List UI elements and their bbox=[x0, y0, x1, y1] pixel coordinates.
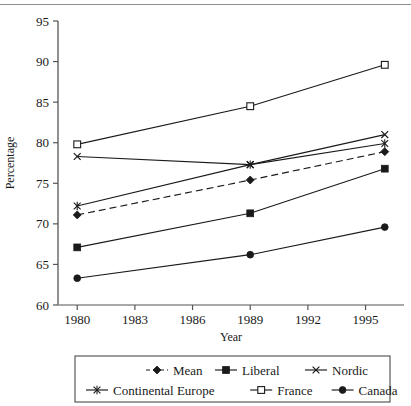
series-line bbox=[77, 169, 385, 248]
series-lines-group bbox=[77, 65, 385, 278]
y-axis-ticks: 6065707580859095 bbox=[36, 14, 58, 313]
x-axis-ticks: 198019831986198919921995 bbox=[64, 305, 378, 327]
legend-label: Nordic bbox=[332, 363, 368, 378]
data-point-open-square bbox=[247, 103, 254, 110]
y-tick-label: 75 bbox=[36, 176, 49, 191]
legend-row-primary: MeanLiberalNordic bbox=[146, 363, 368, 378]
series-line bbox=[77, 65, 385, 145]
y-tick-label: 90 bbox=[36, 54, 49, 69]
data-point-filled-diamond bbox=[73, 211, 81, 219]
data-point-filled-diamond bbox=[246, 176, 254, 184]
x-tick-label: 1980 bbox=[64, 312, 90, 327]
data-point-filled-circle bbox=[74, 275, 81, 282]
series-line bbox=[77, 144, 385, 206]
series-line bbox=[77, 135, 385, 165]
y-tick-label: 60 bbox=[36, 298, 49, 313]
y-axis-title: Percentage bbox=[3, 137, 17, 190]
data-point-filled-square bbox=[74, 244, 81, 251]
legend-marker-open-square bbox=[258, 387, 265, 394]
y-tick-label: 80 bbox=[36, 135, 49, 150]
x-tick-label: 1992 bbox=[295, 312, 321, 327]
chart-axes bbox=[58, 21, 404, 305]
legend-label: Mean bbox=[173, 363, 203, 378]
y-tick-label: 85 bbox=[36, 95, 49, 110]
legend-marker-filled-circle bbox=[339, 387, 346, 394]
y-tick-label: 65 bbox=[36, 257, 49, 272]
legend-label: Canada bbox=[359, 383, 398, 398]
data-point-open-square bbox=[381, 61, 388, 68]
data-point-filled-circle bbox=[247, 251, 254, 258]
line-chart: 6065707580859095 19801983198619891992199… bbox=[0, 0, 411, 406]
series-line bbox=[77, 152, 385, 215]
x-tick-label: 1995 bbox=[353, 312, 379, 327]
x-tick-label: 1983 bbox=[122, 312, 148, 327]
legend-label: Liberal bbox=[242, 363, 280, 378]
data-point-filled-circle bbox=[381, 224, 388, 231]
data-point-filled-diamond bbox=[381, 148, 389, 156]
series-markers-group bbox=[73, 61, 389, 281]
y-tick-label: 70 bbox=[36, 216, 49, 231]
legend-label: Continental Europe bbox=[113, 383, 215, 398]
x-tick-label: 1989 bbox=[237, 312, 263, 327]
data-point-filled-square bbox=[247, 210, 254, 217]
legend-label: France bbox=[277, 383, 313, 398]
series-line bbox=[77, 227, 385, 278]
data-point-open-square bbox=[74, 141, 81, 148]
figure-container: 6065707580859095 19801983198619891992199… bbox=[0, 0, 411, 406]
chart-legend: MeanLiberalNordic Continental EuropeFran… bbox=[75, 356, 398, 402]
top-divider-rule bbox=[0, 4, 411, 5]
y-tick-label: 95 bbox=[36, 14, 49, 29]
x-tick-label: 1986 bbox=[180, 312, 207, 327]
data-point-filled-square bbox=[381, 165, 388, 172]
legend-marker-filled-square bbox=[223, 367, 230, 374]
x-axis-title: Year bbox=[220, 330, 242, 344]
